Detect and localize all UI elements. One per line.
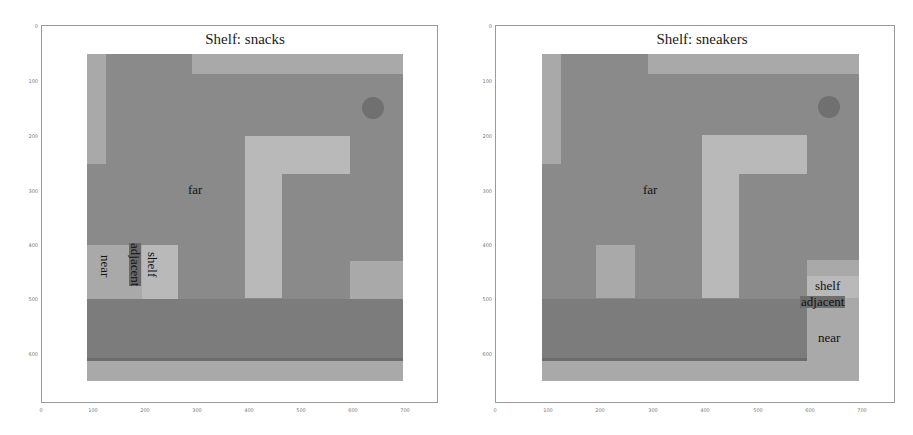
y-tick: 300 [482,188,492,194]
x-tick: 0 [493,407,496,413]
top-left-wall [542,54,561,164]
label-shelf: shelf [815,278,840,294]
y-tick: 500 [482,296,492,302]
bottom-strip [542,361,859,381]
y-tick: 100 [482,78,492,84]
top-left-wall [87,54,106,164]
l-shelf-vertical [245,136,282,298]
floor-shadow-bottom [87,299,403,361]
marker-circle [818,96,840,118]
small-box [596,245,635,298]
x-tick: 200 [140,407,150,413]
panel-title: Shelf: sneakers [656,31,747,48]
x-tick: 100 [88,407,98,413]
top-shelf [648,54,859,74]
x-tick: 700 [857,407,867,413]
y-tick: 500 [28,296,38,302]
y-tick: 400 [482,242,492,248]
top-shelf [192,54,403,74]
right-box [350,261,403,299]
x-tick: 400 [244,407,254,413]
marker-circle [362,97,384,119]
label-far: far [188,182,202,198]
y-tick: 0 [35,23,38,29]
y-tick: 600 [28,351,38,357]
y-tick: 0 [489,23,492,29]
x-tick: 100 [543,407,553,413]
y-tick: 600 [482,351,492,357]
x-tick: 0 [39,407,42,413]
panel-snacks: Shelf: snacks far near adjacent shelf 0 … [0,0,456,435]
label-adjacent: adjacent [129,243,141,286]
y-tick: 300 [28,188,38,194]
x-tick: 700 [400,407,410,413]
y-tick: 100 [28,78,38,84]
y-tick: 400 [28,242,38,248]
panel-title: Shelf: snacks [205,31,285,48]
label-near: near [97,255,113,277]
x-tick: 500 [753,407,763,413]
x-tick: 300 [192,407,202,413]
label-shelf: shelf [144,252,160,277]
x-tick: 300 [648,407,658,413]
panel-sneakers: Shelf: sneakers far shelf adjacent near … [456,0,912,435]
l-shelf-vertical [702,135,739,298]
bottom-strip [87,361,403,381]
y-tick: 200 [482,133,492,139]
x-tick: 400 [700,407,710,413]
y-tick: 200 [28,133,38,139]
x-tick: 200 [595,407,605,413]
x-tick: 500 [296,407,306,413]
x-tick: 600 [348,407,358,413]
label-far: far [643,182,657,198]
label-adjacent: adjacent [800,296,845,308]
label-near: near [818,330,840,346]
x-tick: 600 [805,407,815,413]
